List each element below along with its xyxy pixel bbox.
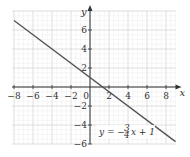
y-tick-label: 4	[81, 44, 87, 54]
x-tick-label: 4	[125, 91, 131, 101]
svg-text:x + 1: x + 1	[131, 127, 155, 137]
y-tick-label: −2	[74, 101, 87, 111]
origin-label: 0	[83, 91, 89, 101]
y-tick-label: −4	[74, 120, 88, 130]
y-axis-arrow-icon	[88, 5, 93, 11]
x-tick-label: −8	[7, 91, 21, 101]
x-tick-label: −2	[64, 91, 77, 101]
y-tick-label: 6	[81, 25, 87, 35]
x-axis-label: x	[180, 87, 186, 98]
x-tick-label: −6	[26, 91, 40, 101]
axes: xy	[12, 5, 185, 144]
linear-function-graph: xy −8−6−4−22468642−2−4−60 y = −34x + 1	[0, 0, 190, 157]
svg-text:4: 4	[123, 130, 130, 140]
y-axis-label: y	[80, 6, 87, 17]
y-tick-label: −6	[74, 139, 88, 149]
x-tick-label: 8	[163, 91, 169, 101]
x-tick-label: 6	[144, 91, 150, 101]
x-tick-label: −4	[45, 91, 59, 101]
equation-label: y = −	[98, 127, 125, 137]
equation-annotation: y = −34x + 1	[97, 123, 155, 140]
